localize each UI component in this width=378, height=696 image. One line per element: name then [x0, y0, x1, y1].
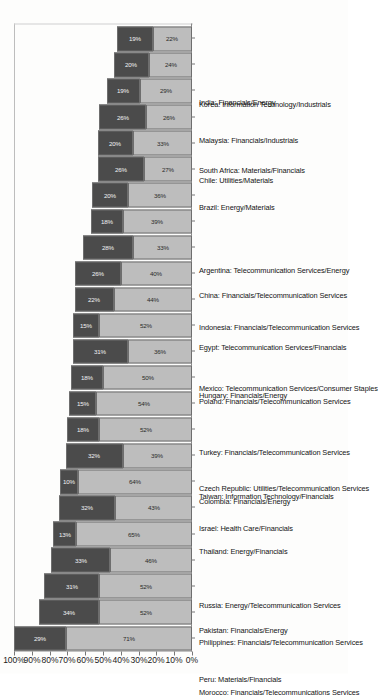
bar[interactable]: 31%36%: [14, 339, 192, 363]
bar[interactable]: 32%39%: [14, 443, 192, 467]
category-label: Philippines: Financials/Telecommunicatio…: [199, 637, 363, 646]
bar-segment-top[interactable]: 26%: [99, 104, 145, 128]
bar-segment-bottom[interactable]: 33%: [133, 235, 192, 259]
bar-segment-bottom[interactable]: 52%: [99, 599, 192, 623]
bar-segment-top[interactable]: 32%: [66, 443, 123, 467]
category-label: Taiwan: Information Technology/Financial…: [199, 492, 334, 501]
bar-segment-bottom[interactable]: 54%: [96, 391, 192, 415]
bar[interactable]: 34%52%: [14, 599, 192, 623]
bar-value-label: 64%: [129, 478, 141, 485]
bar-segment-bottom[interactable]: 40%: [121, 261, 192, 285]
bar-value-label: 19%: [118, 87, 130, 94]
bar-segment-bottom[interactable]: 52%: [99, 573, 192, 597]
bar-segment-bottom[interactable]: 36%: [128, 339, 192, 363]
bar-segment-bottom[interactable]: 50%: [103, 365, 192, 389]
bar-segment-top[interactable]: 31%: [73, 339, 128, 363]
category-label: Czech Republic: Utilities/Telecommunicat…: [199, 484, 369, 493]
category-tick: [191, 142, 195, 143]
bar[interactable]: 26%26%: [14, 104, 192, 128]
bar-segment-bottom[interactable]: 46%: [110, 547, 192, 571]
bar-segment-bottom[interactable]: 27%: [144, 156, 192, 180]
category-label: Thailand: Energy/Financials: [199, 547, 288, 556]
axis-tick-label: 60%: [77, 654, 94, 664]
bar-segment-top[interactable]: 28%: [83, 235, 133, 259]
bar-segment-top[interactable]: 10%: [60, 469, 78, 493]
bar-segment-top[interactable]: 18%: [91, 209, 123, 233]
bar-value-label: 28%: [102, 243, 114, 250]
bar-segment-top[interactable]: 18%: [67, 417, 99, 441]
bar-segment-top[interactable]: 20%: [98, 130, 134, 154]
bar-segment-top[interactable]: 15%: [69, 391, 96, 415]
bar[interactable]: 18%50%: [14, 365, 192, 389]
bar[interactable]: 15%52%: [14, 313, 192, 337]
bar-value-label: 39%: [151, 217, 163, 224]
bar-segment-top[interactable]: 32%: [59, 495, 116, 519]
bar-segment-top[interactable]: 19%: [117, 26, 153, 50]
bar-segment-top[interactable]: 31%: [44, 573, 99, 597]
bar-segment-top[interactable]: 19%: [107, 78, 141, 102]
bar-segment-top[interactable]: 22%: [75, 287, 114, 311]
bar[interactable]: 20%24%: [14, 52, 192, 76]
bar[interactable]: 18%52%: [14, 417, 192, 441]
bar-value-label: 18%: [78, 426, 90, 433]
category-tick-group: Taiwan: Information Technology/Financial…: [195, 417, 345, 441]
bar-segment-top[interactable]: 15%: [73, 313, 100, 337]
category-label: Indonesia: Financials/Telecommunication …: [199, 323, 359, 332]
bar[interactable]: 18%39%: [14, 209, 192, 233]
category-tick: [191, 637, 195, 638]
bar-segment-bottom[interactable]: 52%: [99, 417, 192, 441]
axis-tick-label: 40%: [112, 654, 129, 664]
bar-segment-top[interactable]: 20%: [92, 182, 128, 206]
bar-segment-bottom[interactable]: 36%: [128, 182, 192, 206]
bar-segment-bottom[interactable]: 52%: [99, 313, 192, 337]
bar-segment-bottom[interactable]: 29%: [140, 78, 192, 102]
category-tick: [191, 454, 195, 455]
bar[interactable]: 19%29%: [14, 78, 192, 102]
bar[interactable]: 26%27%: [14, 156, 192, 180]
bar-value-label: 20%: [110, 139, 122, 146]
bar[interactable]: 22%44%: [14, 287, 192, 311]
bar-segment-bottom[interactable]: 26%: [146, 104, 192, 128]
bar-segment-top[interactable]: 20%: [114, 52, 150, 76]
bar-segment-bottom[interactable]: 44%: [114, 287, 192, 311]
bar-segment-bottom[interactable]: 22%: [153, 26, 192, 50]
bar-segment-bottom[interactable]: 71%: [66, 626, 192, 650]
bar-value-label: 33%: [75, 556, 87, 563]
bar[interactable]: 20%33%: [14, 130, 192, 154]
bar[interactable]: 15%54%: [14, 391, 192, 415]
category-tick: [191, 402, 195, 403]
category-label: Egypt: Telecommunication Services/Financ…: [199, 342, 346, 351]
bar-segment-top[interactable]: 26%: [98, 156, 144, 180]
category-label: Poland: Financials/Telecommunication Ser…: [199, 396, 351, 405]
bar[interactable]: 31%52%: [14, 573, 192, 597]
bar-value-label: 22%: [167, 35, 179, 42]
bar-segment-bottom[interactable]: 39%: [123, 443, 192, 467]
bar[interactable]: 29%71%: [14, 626, 192, 650]
bar-value-label: 15%: [77, 400, 89, 407]
bar[interactable]: 33%46%: [14, 547, 192, 571]
bar[interactable]: 20%36%: [14, 182, 192, 206]
bar[interactable]: 28%33%: [14, 235, 192, 259]
bar-segment-top[interactable]: 26%: [75, 261, 121, 285]
bar[interactable]: 26%40%: [14, 261, 192, 285]
bar[interactable]: 13%65%: [14, 521, 192, 545]
bar-segment-top[interactable]: 29%: [14, 626, 66, 650]
bar-segment-bottom[interactable]: 64%: [78, 469, 192, 493]
category-label: Chile: Utilities/Materials: [199, 175, 273, 184]
bar-segment-bottom[interactable]: 24%: [149, 52, 192, 76]
bar-segment-bottom[interactable]: 33%: [133, 130, 192, 154]
bar-segment-top[interactable]: 18%: [71, 365, 103, 389]
bar-segment-top[interactable]: 33%: [51, 547, 110, 571]
axis-tick-label: 70%: [59, 654, 76, 664]
category-tick-group: Indonesia: Financials/Telecommunication …: [195, 235, 345, 259]
bar-segment-top[interactable]: 13%: [53, 521, 76, 545]
bar-segment-bottom[interactable]: 65%: [76, 521, 192, 545]
axis-tick-label: 90%: [23, 654, 40, 664]
bar-segment-bottom[interactable]: 39%: [123, 209, 192, 233]
bar[interactable]: 19%22%: [14, 26, 192, 50]
bar[interactable]: 32%43%: [14, 495, 192, 519]
bar-segment-top[interactable]: 34%: [39, 599, 100, 623]
bar[interactable]: 10%64%: [14, 469, 192, 493]
bar-segment-bottom[interactable]: 43%: [115, 495, 192, 519]
